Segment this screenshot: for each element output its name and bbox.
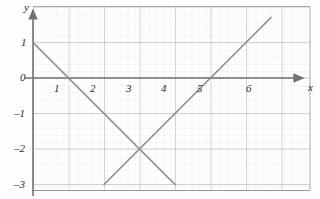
x-tick-5: 5: [197, 83, 203, 94]
y-tick-neg3: –3: [14, 179, 25, 190]
graph-figure: y x 1 2 3 4 5 6 1 0 –1 –2 –3: [0, 0, 320, 199]
grid-layer: [33, 7, 310, 191]
x-axis-label: x: [308, 82, 313, 93]
x-tick-4: 4: [161, 83, 167, 94]
y-tick-1: 1: [21, 37, 27, 48]
y-tick-0: 0: [20, 72, 26, 83]
x-tick-2: 2: [90, 83, 96, 94]
x-tick-3: 3: [126, 83, 132, 94]
major-gridlines: [33, 7, 310, 191]
x-tick-1: 1: [54, 83, 60, 94]
y-axis-label: y: [24, 2, 29, 13]
y-tick-neg2: –2: [14, 143, 25, 154]
y-tick-neg1: –1: [14, 108, 25, 119]
x-tick-6: 6: [246, 83, 252, 94]
coordinate-plot: [0, 0, 320, 199]
